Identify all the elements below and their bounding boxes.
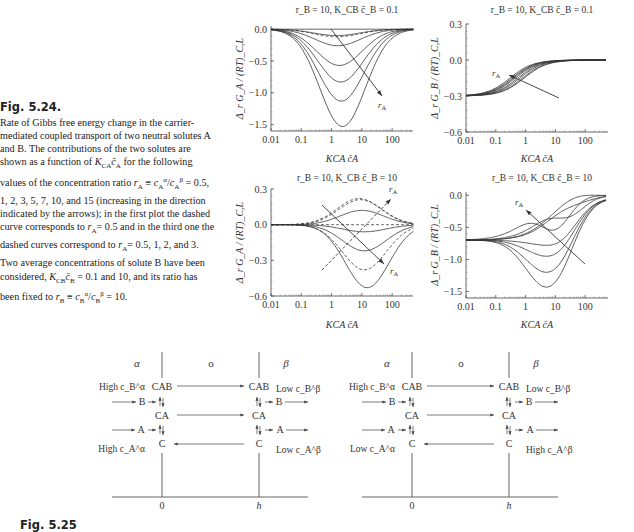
svg-text:100: 100 bbox=[385, 134, 400, 145]
svg-text:−1.0: −1.0 bbox=[249, 87, 267, 98]
svg-text:0.1: 0.1 bbox=[295, 299, 308, 310]
svg-text:A: A bbox=[387, 424, 395, 435]
svg-text:β: β bbox=[532, 357, 539, 369]
svg-text:CA: CA bbox=[252, 410, 267, 421]
series-rA-5 bbox=[271, 225, 413, 232]
svg-text:0.3: 0.3 bbox=[450, 19, 463, 30]
svg-text:0.3: 0.3 bbox=[255, 184, 268, 195]
svg-text:rA: rA bbox=[389, 184, 398, 195]
series-rA-10 bbox=[466, 200, 606, 272]
svg-text:100: 100 bbox=[578, 301, 593, 312]
transport-diagram-1: αoβ0hCABCABBBCACAAACCHigh c_B^αHigh c_A^… bbox=[98, 352, 321, 511]
svg-text:rA: rA bbox=[378, 100, 387, 111]
svg-text:−1.5: −1.5 bbox=[249, 119, 267, 130]
figure-label-5-25: Fig. 5.25 bbox=[20, 518, 77, 532]
series-rA-15 bbox=[466, 201, 606, 288]
svg-text:0.0: 0.0 bbox=[255, 24, 268, 35]
svg-text:B: B bbox=[276, 396, 283, 407]
svg-text:C: C bbox=[256, 438, 263, 449]
svg-text:h: h bbox=[507, 500, 512, 511]
series-rA-1 bbox=[466, 197, 606, 241]
svg-text:Low c_B^β: Low c_B^β bbox=[526, 384, 571, 394]
svg-text:−1.0: −1.0 bbox=[444, 254, 462, 265]
svg-text:r_B = 10, K_CB c̄_B = 10: r_B = 10, K_CB c̄_B = 10 bbox=[492, 173, 592, 183]
arrowhead-icon bbox=[377, 90, 382, 96]
rA-arrow bbox=[331, 29, 382, 96]
series-rA-10 bbox=[271, 225, 413, 270]
svg-text:Δ_r G_B / (RT)_C,L: Δ_r G_B / (RT)_C,L bbox=[429, 204, 441, 287]
svg-text:C: C bbox=[506, 438, 513, 449]
svg-text:0.01: 0.01 bbox=[262, 134, 280, 145]
svg-text:−0.3: −0.3 bbox=[249, 255, 267, 266]
svg-text:0.1: 0.1 bbox=[490, 135, 503, 146]
chart-3: 0.30.0−0.3−0.60.010.1110100r_B = 10, K_C… bbox=[234, 173, 413, 330]
svg-text:0: 0 bbox=[160, 500, 165, 511]
chart-1: 0.0−0.5−1.0−1.50.010.1110100r_B = 10, K_… bbox=[234, 5, 413, 164]
svg-text:CA: CA bbox=[155, 410, 170, 421]
svg-text:CA: CA bbox=[405, 410, 420, 421]
svg-text:A: A bbox=[526, 424, 534, 435]
svg-text:Δ_r G_B / (RT)_C,L: Δ_r G_B / (RT)_C,L bbox=[429, 37, 441, 120]
transport-diagram-2: αoβ0hCABCABBBCACAAACCHigh c_B^αLow c_A^α… bbox=[349, 352, 573, 511]
svg-text:0.0: 0.0 bbox=[450, 190, 463, 201]
svg-text:High c_A^α: High c_A^α bbox=[98, 444, 145, 454]
svg-text:10: 10 bbox=[357, 134, 367, 145]
svg-text:0: 0 bbox=[410, 500, 415, 511]
svg-text:High c_B^α: High c_B^α bbox=[99, 382, 145, 392]
svg-text:CAB: CAB bbox=[249, 381, 270, 392]
svg-text:10: 10 bbox=[357, 299, 367, 310]
svg-text:Low c_B^β: Low c_B^β bbox=[276, 384, 321, 394]
chart-4: 0.0−0.5−1.0−1.50.010.1110100r_B = 10, K_… bbox=[429, 173, 608, 330]
svg-text:B: B bbox=[389, 396, 396, 407]
svg-text:High c_A^β: High c_A^β bbox=[526, 445, 573, 455]
svg-text:KCA c̄A: KCA c̄A bbox=[520, 319, 554, 330]
svg-text:1: 1 bbox=[523, 135, 528, 146]
svg-text:β: β bbox=[282, 357, 289, 369]
svg-text:Δ_r G_A / (RT)_C,L: Δ_r G_A / (RT)_C,L bbox=[234, 37, 246, 120]
chart-2: 0.30.0−0.3−0.60.010.1110100r_B = 10, K_C… bbox=[429, 5, 608, 164]
svg-text:B: B bbox=[526, 396, 533, 407]
svg-text:CA: CA bbox=[502, 410, 517, 421]
svg-text:100: 100 bbox=[385, 299, 400, 310]
svg-text:B: B bbox=[139, 396, 146, 407]
svg-text:CAB: CAB bbox=[152, 381, 173, 392]
svg-text:CAB: CAB bbox=[499, 381, 520, 392]
svg-text:KCA c̄A: KCA c̄A bbox=[325, 153, 359, 164]
svg-text:Δ_r G_A / (RT)_C,L: Δ_r G_A / (RT)_C,L bbox=[234, 201, 246, 284]
rA-arrow bbox=[322, 205, 384, 264]
svg-text:0.01: 0.01 bbox=[457, 135, 475, 146]
svg-text:A: A bbox=[276, 424, 284, 435]
svg-text:1: 1 bbox=[329, 134, 334, 145]
svg-text:0.1: 0.1 bbox=[295, 134, 308, 145]
svg-text:0.01: 0.01 bbox=[457, 301, 475, 312]
svg-text:rA: rA bbox=[390, 266, 399, 277]
svg-text:Low c_A^β: Low c_A^β bbox=[276, 445, 321, 455]
svg-text:h: h bbox=[257, 500, 262, 511]
svg-text:−0.3: −0.3 bbox=[444, 91, 462, 102]
svg-text:r_B = 10, K_CB c̄_B = 0.1: r_B = 10, K_CB c̄_B = 0.1 bbox=[296, 5, 399, 15]
svg-text:−0.5: −0.5 bbox=[444, 222, 462, 233]
svg-text:rA: rA bbox=[515, 197, 524, 208]
series-rA-0.5 bbox=[271, 199, 413, 225]
svg-text:1: 1 bbox=[329, 299, 334, 310]
svg-text:o: o bbox=[458, 357, 464, 369]
svg-text:0.0: 0.0 bbox=[450, 55, 463, 66]
svg-text:100: 100 bbox=[578, 135, 593, 146]
rA-arrow bbox=[509, 75, 559, 98]
svg-text:−0.5: −0.5 bbox=[249, 56, 267, 67]
svg-text:Low c_A^α: Low c_A^α bbox=[350, 444, 395, 454]
svg-text:0.1: 0.1 bbox=[490, 301, 503, 312]
svg-text:α: α bbox=[134, 357, 140, 369]
series-rA-2 bbox=[466, 196, 606, 240]
svg-text:r_B = 10, K_CB c̄_B = 0.1: r_B = 10, K_CB c̄_B = 0.1 bbox=[491, 5, 594, 15]
svg-text:1: 1 bbox=[523, 301, 528, 312]
svg-text:r_B = 10, K_CB c̄_B = 10: r_B = 10, K_CB c̄_B = 10 bbox=[297, 173, 397, 183]
series-rA-15 bbox=[271, 225, 413, 288]
series-rA-2 bbox=[271, 210, 413, 224]
svg-text:0.0: 0.0 bbox=[255, 219, 268, 230]
svg-text:C: C bbox=[159, 438, 166, 449]
svg-text:A: A bbox=[137, 424, 145, 435]
series-rA-1 bbox=[271, 200, 413, 225]
svg-text:10: 10 bbox=[550, 301, 560, 312]
